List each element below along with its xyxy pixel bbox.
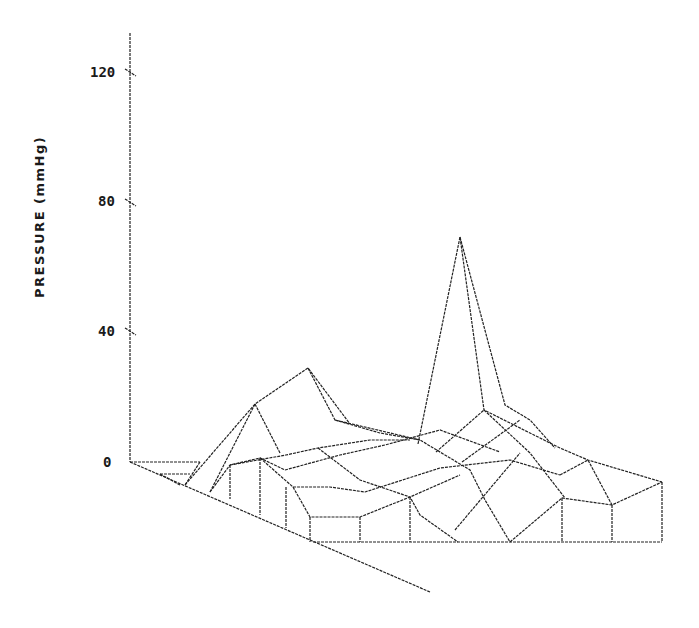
pressure-axis bbox=[125, 33, 136, 462]
wireframe-surface-plot bbox=[0, 0, 699, 628]
depth-axis bbox=[130, 462, 430, 592]
